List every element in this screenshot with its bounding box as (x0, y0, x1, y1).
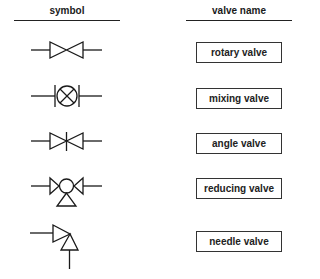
rotary-valve-symbol-icon (31, 42, 102, 58)
reducing-valve-symbol-icon (31, 178, 102, 206)
valve-name-box-needle: needle valve (196, 231, 282, 252)
valve-name-box-angle: angle valve (196, 133, 282, 154)
mixing-valve-symbol-icon (31, 85, 102, 107)
angle-valve-symbol-icon (31, 132, 102, 151)
valve-name-box-mixing: mixing valve (196, 88, 282, 109)
needle-valve-symbol-icon (30, 225, 78, 269)
valve-name-box-reducing: reducing valve (196, 178, 282, 199)
valve-name-box-rotary: rotary valve (196, 42, 282, 63)
